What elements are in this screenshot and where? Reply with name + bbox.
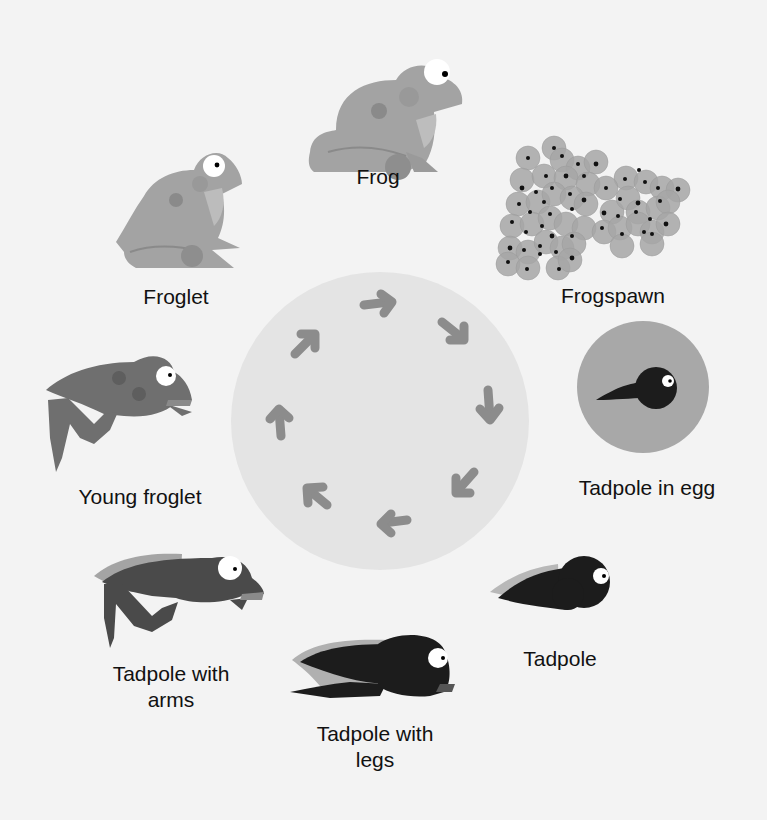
arrow-up-icon <box>270 409 289 436</box>
arrow-left-icon <box>381 514 407 533</box>
tadpole-with-arms-illustration <box>92 548 262 648</box>
tadpole-in-egg-illustration <box>576 320 711 455</box>
arrow-down-right-icon <box>442 322 464 340</box>
arrow-down-left-icon <box>456 472 474 493</box>
frog-life-cycle-diagram: Frog Frogspawn <box>0 0 767 820</box>
arrow-down-icon <box>480 390 499 420</box>
label-line-2: arms <box>96 687 246 713</box>
stage-label-frogspawn: Frogspawn <box>548 283 678 309</box>
arrow-up-right-icon <box>295 334 315 354</box>
stage-label-young-froglet: Young froglet <box>60 484 220 510</box>
cycle-arrows <box>231 272 529 570</box>
stage-label-frog: Frog <box>338 164 418 190</box>
label-line-1: Tadpole with <box>96 661 246 687</box>
young-froglet-illustration <box>44 354 204 474</box>
arrow-up-left-icon <box>307 487 327 505</box>
frog-illustration <box>306 52 466 172</box>
label-line-1: Tadpole with <box>300 721 450 747</box>
stage-label-tadpole: Tadpole <box>515 646 605 672</box>
stage-label-tadpole-in-egg: Tadpole in egg <box>562 475 732 501</box>
stage-label-froglet: Froglet <box>126 284 226 310</box>
froglet-illustration <box>114 148 244 270</box>
tadpole-illustration <box>488 550 618 620</box>
stage-label-tadpole-with-arms: Tadpole with arms <box>96 661 246 713</box>
tadpole-with-legs-illustration <box>290 634 460 706</box>
arrow-right-icon <box>364 294 392 313</box>
label-line-2: legs <box>300 747 450 773</box>
stage-label-tadpole-with-legs: Tadpole with legs <box>300 721 450 773</box>
frogspawn-illustration <box>492 132 692 280</box>
